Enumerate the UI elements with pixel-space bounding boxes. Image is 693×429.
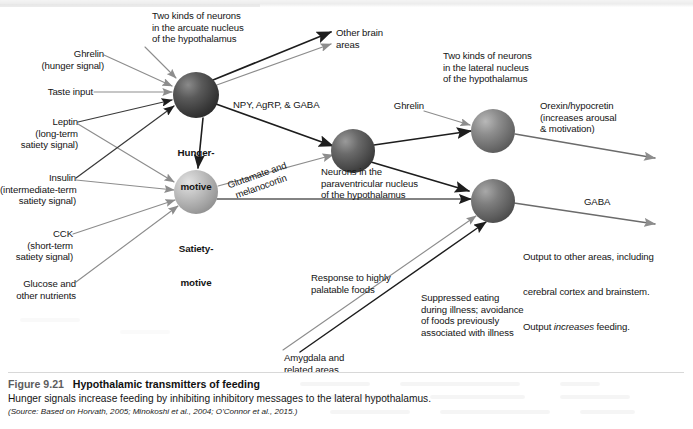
input-label-ghrelin-right: Ghrelin — [330, 100, 424, 112]
wire-lateral-upper-output — [515, 134, 655, 158]
annotation-output-note-line1: Output to other areas, including — [523, 251, 654, 263]
caption-divider — [8, 372, 684, 373]
annotation-output-note-line2: cerebral cortex and brainstem. — [523, 286, 654, 298]
caption-body: Hunger signals increase feeding by inhib… — [8, 392, 684, 405]
node-label-hunger-motive-line1: Hunger- — [156, 147, 236, 158]
input-label-taste-input: Taste input — [0, 86, 93, 98]
input-label-ghrelin-left: Ghrelin (hunger signal) — [0, 48, 104, 71]
input-label-leptin: Leptin (long-term satiety signal) — [0, 116, 78, 151]
node-label-satiety-motive-line1: Satiety- — [156, 243, 236, 254]
figure-caption: Figure 9.21 Hypothalamic transmitters of… — [8, 378, 684, 417]
transmitter-label-gaba: GABA — [584, 196, 610, 208]
node-label-satiety-motive-line2: motive — [156, 277, 236, 288]
annotation-lateral-group: Two kinds of neurons in the lateral nucl… — [443, 50, 532, 85]
transmitter-label-npy: NPY, AgRP, & GABA — [233, 99, 319, 111]
input-label-cck: CCK (short-term satiety signal) — [0, 228, 73, 263]
wire-ghrelin-to-hunger — [104, 55, 172, 86]
annotation-output-note-line3: Output increases feeding. — [523, 321, 654, 333]
figure-page: Two kinds of neurons in the arcuate nucl… — [0, 0, 693, 429]
caption-source: (Source: Based on Horvath, 2005; Minokos… — [8, 406, 684, 417]
neuron-lateral-upper — [471, 109, 515, 153]
pathway-note-palatable: Response to highly palatable foods — [311, 272, 391, 295]
transmitter-label-orexin: Orexin/hypocretin (increases arousal & m… — [540, 100, 617, 135]
wire-lateral-label-to-sphere — [489, 88, 492, 108]
annotation-output-note: Output to other areas, including cerebra… — [523, 228, 654, 356]
figure-title: Hypothalamic transmitters of feeding — [73, 378, 260, 390]
neuron-hunger-motive — [173, 72, 219, 118]
node-label-hunger-motive-line2: motive — [156, 181, 236, 192]
node-label-hunger-motive: Hunger- motive — [156, 124, 236, 215]
annotation-output-emphasis: increases — [554, 321, 594, 332]
caption-heading: Figure 9.21 Hypothalamic transmitters of… — [8, 378, 684, 391]
pathway-note-illness: Suppressed eating during illness; avoida… — [421, 292, 524, 338]
neuron-lateral-lower — [471, 179, 515, 223]
wire-arcuate-label-to-hunger — [145, 47, 176, 78]
annotation-other-brain-areas: Other brain areas — [336, 27, 383, 50]
annotation-pvn-group: Neurons in the paraventricular nucleus o… — [321, 166, 418, 201]
figure-number: Figure 9.21 — [8, 378, 64, 390]
annotation-arcuate-group: Two kinds of neurons in the arcuate nucl… — [152, 10, 244, 45]
wire-leptin-to-hunger — [78, 100, 172, 122]
node-label-satiety-motive: Satiety- motive — [156, 220, 236, 311]
input-label-glucose: Glucose and other nutrients — [0, 278, 76, 301]
wire-ghrelin-right-to-lateral-upper — [424, 111, 470, 125]
wire-satiety-to-other-brain-light — [214, 44, 331, 86]
input-label-insulin: Insulin (intermediate-term satiety signa… — [0, 172, 76, 207]
wire-pvn-to-lateral-upper — [374, 131, 471, 145]
